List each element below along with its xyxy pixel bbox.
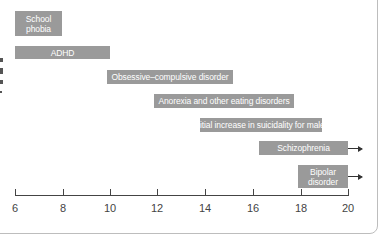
x-tick	[301, 189, 302, 196]
x-tick-label: 8	[51, 202, 75, 214]
x-tick	[63, 189, 64, 196]
bar-label: ADHD	[51, 48, 75, 58]
bar-suicidality: Initial increase in suicidality for male…	[200, 118, 322, 132]
arrow-right-icon	[348, 148, 362, 149]
bar-label: School	[26, 14, 51, 24]
bar-bipolar: Bipolar disorder	[298, 165, 348, 188]
x-tick-label: 12	[145, 202, 169, 214]
cropped-text-fragment	[0, 68, 3, 74]
x-tick-label: 6	[3, 202, 27, 214]
x-tick-label: 14	[193, 202, 217, 214]
x-tick-label: 18	[289, 202, 313, 214]
bar-label: disorder	[308, 177, 338, 187]
x-tick	[348, 189, 349, 196]
bar-ocd: Obsessive–compulsive disorder	[107, 70, 233, 84]
cropped-text-fragment	[0, 91, 2, 93]
x-tick-label: 10	[98, 202, 122, 214]
bar-adhd: ADHD	[15, 46, 110, 59]
arrow-right-icon	[348, 176, 362, 177]
bar-label: Initial increase in suicidality for male…	[193, 120, 329, 130]
x-tick	[253, 189, 254, 196]
x-tick	[205, 189, 206, 196]
x-tick	[15, 189, 16, 196]
bar-anorexia: Anorexia and other eating disorders	[154, 94, 294, 108]
bar-schizophrenia: Schizophrenia	[259, 141, 348, 155]
x-tick-label: 20	[336, 202, 360, 214]
bar-school-phobia: School phobia	[15, 11, 62, 36]
x-tick	[110, 189, 111, 196]
bar-label: Obsessive–compulsive disorder	[111, 72, 228, 82]
cropped-text-fragment	[0, 58, 3, 62]
x-tick	[157, 189, 158, 196]
bar-label: Schizophrenia	[277, 143, 330, 153]
bar-label: phobia	[26, 24, 51, 34]
bar-label: Bipolar	[310, 167, 336, 177]
x-axis-line	[15, 195, 349, 196]
cropped-text-fragment	[0, 80, 3, 84]
x-tick-label: 16	[241, 202, 265, 214]
bar-label: Anorexia and other eating disorders	[158, 96, 289, 106]
